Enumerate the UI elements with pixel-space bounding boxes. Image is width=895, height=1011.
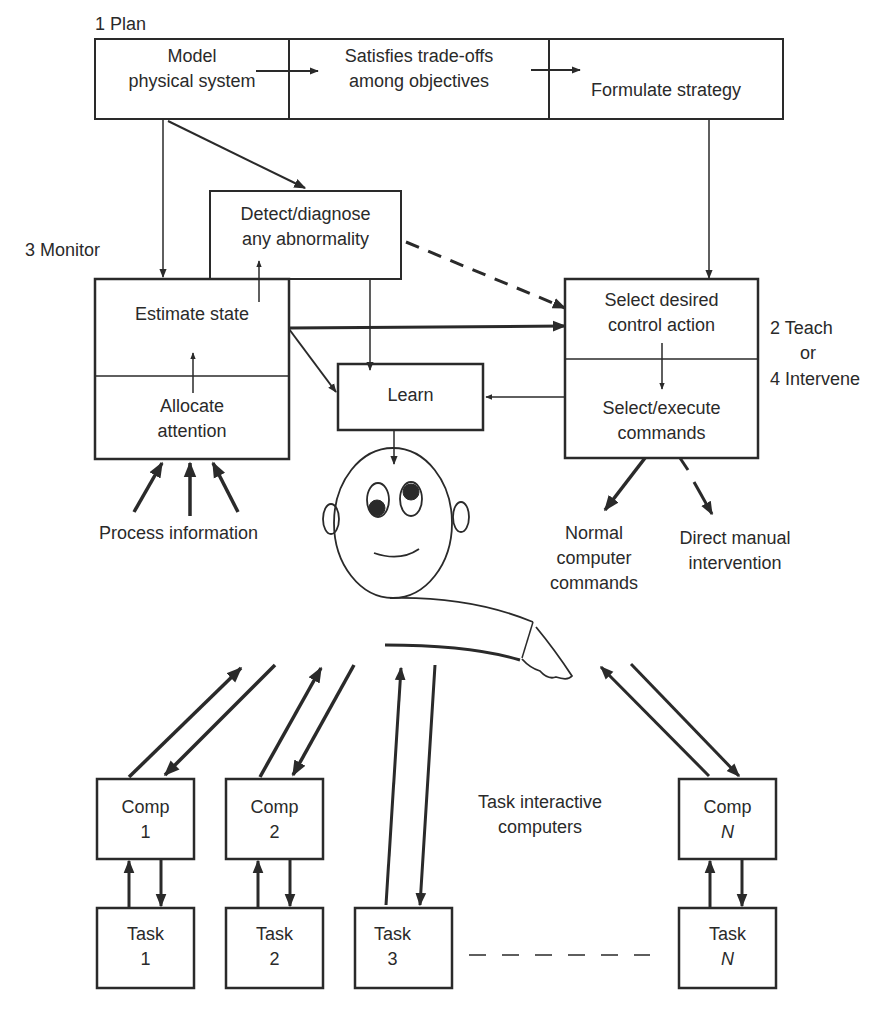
select-control-action-box: Select desired control action: [565, 288, 758, 338]
learn-box: Learn: [338, 383, 483, 408]
comp-2-box: Comp 2: [226, 795, 323, 845]
comp-n-box: Comp N: [679, 795, 776, 845]
tic-line-1: Task interactive: [465, 790, 615, 815]
comp-1-box: Comp 1: [97, 795, 194, 845]
allocate-attention-box: Allocate attention: [95, 394, 289, 444]
or-label: or: [800, 341, 816, 366]
select-execute-commands-box: Select/execute commands: [565, 396, 758, 446]
monitor-label: 3 Monitor: [25, 238, 100, 263]
direct-line-2: intervention: [660, 551, 810, 576]
task-3-box: Task 3: [344, 922, 441, 972]
tradeoffs-line-2: among objectives: [289, 69, 549, 94]
estimate-state-box: Estimate state: [95, 302, 289, 327]
direct-manual-intervention-label: Direct manual intervention: [660, 526, 810, 576]
comp-n-index: N: [679, 820, 776, 845]
comp-2-index: 2: [226, 820, 323, 845]
normal-line-3: commands: [535, 571, 653, 596]
estimate-line-1: Estimate state: [95, 302, 289, 327]
direct-line-1: Direct manual: [660, 526, 810, 551]
task-1-index: 1: [97, 947, 194, 972]
task-n-label: Task: [679, 922, 776, 947]
process-information-label: Process information: [99, 521, 258, 546]
detect-line-2: any abnormality: [210, 227, 401, 252]
learn-line-1: Learn: [338, 383, 483, 408]
normal-line-2: computer: [535, 546, 653, 571]
control-line-1: Select desired: [565, 288, 758, 313]
task-n-index: N: [679, 947, 776, 972]
task-2-index: 2: [226, 947, 323, 972]
diagram-lines: [0, 0, 895, 1011]
allocate-line-2: attention: [95, 419, 289, 444]
task-2-label: Task: [226, 922, 323, 947]
formulate-strategy-box: Formulate strategy: [549, 78, 783, 103]
plan-label: 1 Plan: [95, 12, 146, 37]
task-interactive-computers-label: Task interactive computers: [465, 790, 615, 840]
model-line-2: physical system: [95, 69, 289, 94]
model-line-1: Model: [95, 44, 289, 69]
teach-label: 2 Teach: [770, 316, 833, 341]
execute-line-1: Select/execute: [565, 396, 758, 421]
satisfies-tradeoffs-box: Satisfies trade-offs among objectives: [289, 44, 549, 94]
normal-line-1: Normal: [535, 521, 653, 546]
task-1-label: Task: [97, 922, 194, 947]
comp-1-label: Comp: [97, 795, 194, 820]
model-physical-system-box: Model physical system: [95, 44, 289, 94]
task-3-label: Task: [344, 922, 441, 947]
tic-line-2: computers: [465, 815, 615, 840]
formulate-line-1: Formulate strategy: [549, 78, 783, 103]
task-2-box: Task 2: [226, 922, 323, 972]
detect-line-1: Detect/diagnose: [210, 202, 401, 227]
control-line-2: control action: [565, 313, 758, 338]
execute-line-2: commands: [565, 421, 758, 446]
comp-n-label: Comp: [679, 795, 776, 820]
task-n-box: Task N: [679, 922, 776, 972]
tradeoffs-line-1: Satisfies trade-offs: [289, 44, 549, 69]
comp-1-index: 1: [97, 820, 194, 845]
detect-diagnose-box: Detect/diagnose any abnormality: [210, 202, 401, 252]
allocate-line-1: Allocate: [95, 394, 289, 419]
intervene-label: 4 Intervene: [770, 367, 860, 392]
normal-computer-commands-label: Normal computer commands: [535, 521, 653, 596]
task-3-index: 3: [344, 947, 441, 972]
comp-2-label: Comp: [226, 795, 323, 820]
task-1-box: Task 1: [97, 922, 194, 972]
